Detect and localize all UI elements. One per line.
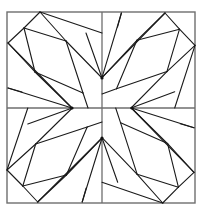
pattern-segment <box>180 29 196 45</box>
quadrant-3 <box>7 108 102 202</box>
pattern-segment <box>28 108 73 124</box>
pattern-segment <box>8 88 22 92</box>
hub-dot <box>70 106 73 109</box>
quadrant-0 <box>8 12 102 108</box>
pattern-segment <box>82 188 86 202</box>
pattern-segment <box>102 89 117 94</box>
hub-dot <box>100 136 103 139</box>
pattern-segment <box>8 28 24 43</box>
pattern-segment <box>165 13 180 29</box>
pattern-segment <box>36 127 87 144</box>
hub-dot <box>130 106 133 109</box>
pattern-segment <box>178 172 194 187</box>
pattern-segment <box>118 13 122 27</box>
quilt-pattern-canvas <box>0 0 204 216</box>
pattern-segment <box>83 93 88 108</box>
hub-dot <box>100 76 103 79</box>
pattern-segment <box>66 41 102 78</box>
quadrant-2 <box>102 108 194 203</box>
pattern-segment <box>7 170 23 186</box>
pattern-segment <box>121 123 138 175</box>
pattern-segment <box>121 123 168 144</box>
pattern-segment <box>86 33 102 78</box>
pattern-segment <box>180 124 194 128</box>
pattern-segment <box>102 138 137 175</box>
pattern-segment <box>66 41 83 93</box>
pattern-segment <box>87 122 102 127</box>
pattern-segment <box>35 72 83 93</box>
quadrant-1 <box>102 13 195 108</box>
pattern-segment <box>131 92 175 108</box>
pattern-segment <box>163 187 179 203</box>
pattern-segment <box>131 72 167 108</box>
pattern-segment <box>117 40 137 89</box>
pattern-segment <box>24 12 40 28</box>
pattern-segment <box>36 108 73 144</box>
pattern-segment <box>66 127 87 175</box>
pattern-segment <box>117 72 167 89</box>
pattern-segment <box>23 186 38 202</box>
pattern-segment <box>102 138 118 183</box>
pattern-segment <box>116 108 121 123</box>
